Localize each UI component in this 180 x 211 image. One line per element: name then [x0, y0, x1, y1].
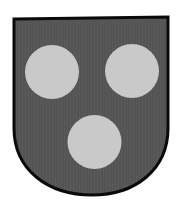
roundel-sinister-chief [105, 44, 159, 98]
roundel-dexter-chief [25, 45, 79, 99]
shield-graphic [0, 0, 180, 211]
coat-of-arms [0, 0, 180, 211]
roundel-base [68, 115, 122, 169]
